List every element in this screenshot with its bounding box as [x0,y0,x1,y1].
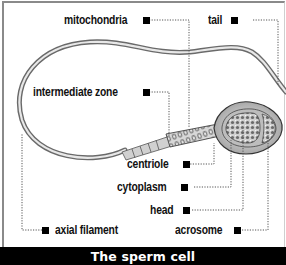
sperm-head [214,102,282,154]
label-head: head [150,203,173,217]
label-mitochondria: mitochondria [64,13,127,27]
marker-acrosome [234,227,241,234]
caption-title: The sperm cell [91,249,196,264]
caption-bar: The sperm cell [0,247,286,265]
label-acrosome: acrosome [175,223,222,237]
leader-intermediate-zone [149,92,169,136]
marker-tail [231,17,238,24]
marker-centriole [183,161,190,168]
label-axial-filament: axial filament [55,223,118,237]
label-cytoplasm: cytoplasm [117,180,167,194]
marker-mitochondria [143,17,150,24]
label-centriole: centriole [127,157,168,171]
marker-head [183,207,190,214]
marker-intermediate-zone [143,89,150,96]
marker-cytoplasm [181,184,188,191]
sperm-cell-illustration [0,0,286,247]
label-tail: tail [208,13,222,27]
label-intermediate-zone: intermediate zone [33,85,118,99]
leader-axial-filament [22,133,42,230]
marker-axial-filament [42,227,49,234]
